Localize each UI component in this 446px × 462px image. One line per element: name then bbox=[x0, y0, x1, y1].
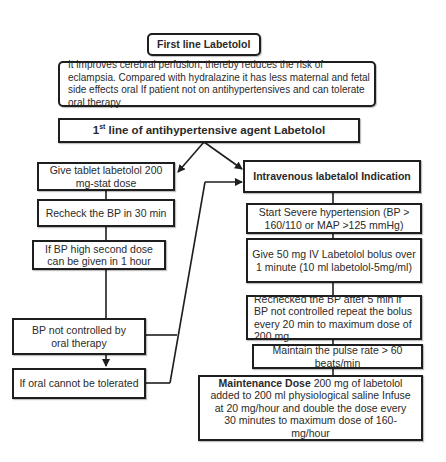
iv-step-recheck: Rechecked the BP after 5 min if BP not c… bbox=[246, 295, 422, 340]
iv-step-bolus: Give 50 mg IV Labetolol bolus over 1 min… bbox=[246, 238, 422, 283]
header-text: 1st line of antihypertensive agent Labet… bbox=[93, 124, 325, 137]
title-box: First line Labetolol bbox=[147, 33, 261, 56]
oral-step-recheck: Recheck the BP in 30 min bbox=[37, 199, 175, 227]
arrow-to-iv bbox=[204, 142, 242, 169]
oral-step-second-dose: If BP high second dose can be given in 1… bbox=[32, 240, 166, 270]
iv-title-box: Intravenous labetalol Indication bbox=[243, 160, 421, 193]
iv-maintenance-box: Maintenance Dose 200 mg of labetolol add… bbox=[198, 375, 423, 441]
iv-step-indication: Start Severe hypertension (BP > 160/110 … bbox=[246, 203, 422, 234]
iv-step-pulse: Maintain the pulse rate > 60 beats/min bbox=[252, 344, 423, 369]
oral-step-not-controlled: BP not controlled by oral therapy bbox=[12, 318, 146, 355]
arrow-to-oral bbox=[178, 142, 204, 172]
oral-step-tablet: Give tablet labetolol 200 mg-stat dose bbox=[37, 162, 175, 191]
oral-step-not-tolerated: If oral cannot be tolerated bbox=[12, 368, 146, 399]
title-text: First line Labetolol bbox=[157, 38, 250, 51]
description-box: It improves cerebral perfusion, thereby … bbox=[58, 61, 376, 107]
maintenance-label: Maintenance Dose bbox=[219, 377, 311, 389]
header-box: 1st line of antihypertensive agent Labet… bbox=[58, 118, 360, 143]
description-text: It improves cerebral perfusion, thereby … bbox=[68, 59, 370, 109]
